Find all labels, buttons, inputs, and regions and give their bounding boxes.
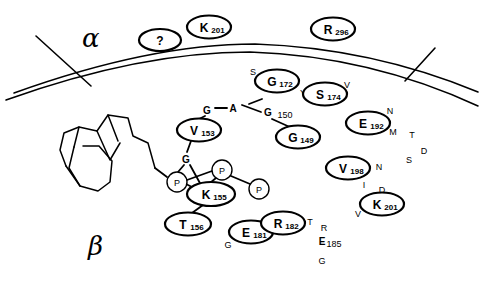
residue-k201-top: K201 [187,16,231,39]
residue-v198: V198 [326,157,370,180]
residue-letter: K [373,198,382,212]
lipid-ring-body [69,146,112,191]
bond-bond-p-top-p-right [231,176,250,184]
phosphate-label: P [174,178,180,188]
residue-letter: T [179,218,187,232]
residue-g172: G172 [255,70,299,93]
beta-domain-label: β [87,231,103,261]
residue-letter: V [339,162,347,176]
residue-number: 153 [201,129,215,138]
residue-r296: R296 [311,18,355,41]
residue-number: 156 [190,223,204,232]
lipid-chain-group [60,115,155,191]
residue-number: 172 [279,80,293,89]
phosphate-p-top: P [212,160,232,180]
sequence-letter-seq-d-196: D [421,146,428,156]
residue-letter: ? [156,34,163,48]
lipid-ring-extra [66,166,80,186]
sequence-letter-seq-n-199: N [376,162,383,172]
bond-bond-p-left-p-top [187,171,212,180]
residue-letter: K [202,188,211,202]
residue-number: 149 [300,136,314,145]
sequence-letter-seq-g-186: G [318,256,325,266]
residue-k155: K155 [187,182,235,206]
membrane-right-branch [405,48,435,81]
sequence-letter-seq-t-183: T [307,217,313,227]
sequence-letter-seq-s-172: S [250,67,256,77]
residue-number: 198 [350,167,364,176]
residue-letter: S [316,88,324,102]
letter-g150: G [264,107,272,118]
letter-e185: E [319,236,326,247]
phosphate-p-right: P [249,179,269,199]
bond-bond-v153-g [187,141,191,152]
letter-a-top: A [229,103,236,114]
bond-bond-chain-p [155,168,167,177]
sequence-letter-seq-m-194: M [389,127,397,137]
residue-e192: E192 [346,112,390,135]
residue-v153: V153 [177,119,221,142]
subscript-g150-num: 150 [277,110,292,120]
residue-s174: S174 [303,83,347,106]
residue-unknown: ? [139,29,181,51]
phosphate-label: P [256,185,262,195]
sequence-letter-seq-t-195: T [409,130,415,140]
residue-letter: G [288,131,297,145]
residue-number: 182 [285,222,299,231]
lipid-tail [74,115,155,168]
sequence-letter-seq-v-202: V [355,209,361,219]
residue-letter: R [324,23,333,37]
lipid-fold-2 [108,115,118,141]
residue-letter: V [190,124,198,138]
membrane-topology-diagram: α β GAGGE150185 SYVNMTDSNIDVGTRG PPP ?K2… [0,0,484,281]
residue-k201-right: K201 [360,193,404,216]
residue-number: 174 [327,93,341,102]
sequence-letter-seq-s-197: S [406,155,412,165]
alpha-domain-label: α [82,23,100,53]
residue-number: 181 [253,231,267,240]
phosphate-p-left: P [167,172,187,192]
letter-g-top-left: G [203,105,211,116]
residue-letter: R [274,217,283,231]
residue-g149: G149 [276,126,320,149]
bond-bond-a-left [249,99,262,104]
residue-number: 201 [384,203,398,212]
sequence-letter-seq-g-180: G [224,240,231,250]
lipid-ring-inner [60,127,79,166]
residue-letter: E [242,226,250,240]
subscript-e185-num: 185 [326,239,341,249]
sequence-letter-seq-n-193: N [387,106,394,116]
residue-number: 296 [335,28,349,37]
residue-number: 155 [213,193,227,202]
bond-bond-g-p-left [178,165,184,172]
residue-letter: G [267,75,276,89]
residue-t156: T156 [165,213,211,236]
residue-number: 201 [211,26,225,35]
phosphate-label: P [219,166,225,176]
residue-r182: R182 [261,212,305,235]
sequence-letter-seq-r-184: R [321,223,328,233]
sequence-letter-seq-i-199b: I [363,180,366,190]
residue-number: 192 [370,122,384,131]
letter-g-mid: G [182,154,190,165]
bond-bond-a-g150 [242,105,261,112]
residue-letter: E [359,117,367,131]
residue-letter: K [200,21,209,35]
membrane-group [6,36,478,106]
diagram-canvas: α β GAGGE150185 SYVNMTDSNIDVGTRG PPP ?K2… [0,0,484,281]
